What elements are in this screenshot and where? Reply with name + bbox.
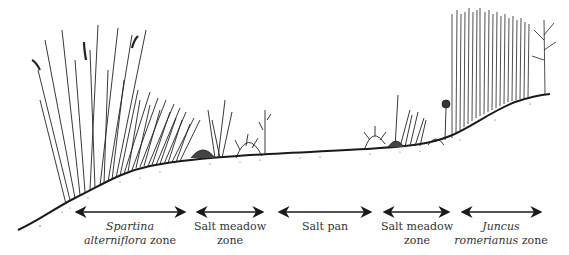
salt-meadow-plants-1 [191, 100, 271, 158]
spartina-grass [32, 25, 200, 204]
label-line2: zone [147, 234, 177, 247]
label-line1: Salt pan [302, 220, 348, 233]
label-spartina-zone: Spartina alterniflora zone [84, 220, 176, 248]
label-line2: zone [404, 234, 430, 247]
label-salt-pan: Salt pan [302, 220, 348, 234]
label-line2-italic: alterniflora [84, 234, 147, 247]
label-line2: zone [217, 234, 243, 247]
salt-marsh-illustration [0, 0, 569, 255]
label-line2-italic: romerianus [454, 234, 518, 247]
label-salt-meadow-zone-1: Salt meadow zone [194, 220, 266, 248]
label-line1: Salt meadow [381, 220, 453, 233]
ground-profile [18, 94, 550, 230]
label-salt-meadow-zone-2: Salt meadow zone [381, 220, 453, 248]
label-juncus-zone: Juncus romerianus zone [454, 220, 548, 248]
soil-stipple [39, 103, 530, 226]
label-line1-italic: Spartina [106, 220, 154, 233]
label-line2: zone [518, 234, 548, 247]
label-line1: Salt meadow [194, 220, 266, 233]
label-line1-italic: Juncus [482, 220, 519, 233]
juncus-reeds [452, 8, 556, 138]
